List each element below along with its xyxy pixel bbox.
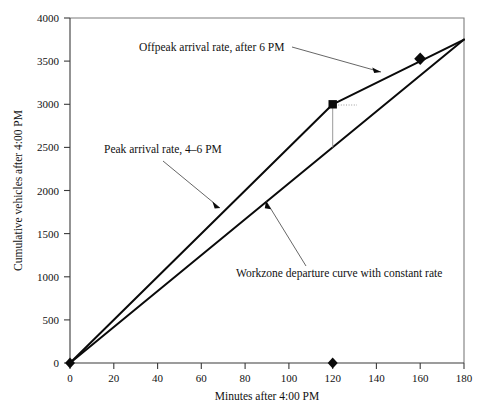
y-tick-label-3000: 3000 — [37, 98, 60, 110]
departure-annotation: Workzone departure curve with constant r… — [236, 201, 442, 280]
marker-x-axis-120 — [328, 358, 338, 369]
peak-annotation-leader — [163, 161, 220, 208]
cumulative-arrival-departure-chart: 4000 3500 3000 2500 2000 1500 1000 500 0… — [0, 0, 491, 418]
departure-curve-group — [70, 40, 464, 363]
x-axis-title: Minutes after 4:00 PM — [215, 390, 319, 402]
data-point-markers — [65, 52, 426, 368]
x-axis: 0 20 40 60 80 100 120 140 160 180 Minute… — [67, 363, 473, 402]
x-tick-label-20: 20 — [108, 372, 120, 384]
y-tick-label-0: 0 — [54, 357, 60, 369]
offpeak-annotation-arrowhead — [372, 67, 381, 73]
y-axis-ticks — [64, 18, 70, 363]
y-tick-label-2000: 2000 — [37, 185, 60, 197]
offpeak-annotation-label: Offpeak arrival rate, after 6 PM — [139, 41, 284, 54]
peak-annotation: Peak arrival rate, 4–6 PM — [104, 143, 222, 208]
departure-annotation-label: Workzone departure curve with constant r… — [236, 267, 442, 280]
y-tick-label-1500: 1500 — [37, 228, 60, 240]
offpeak-annotation: Offpeak arrival rate, after 6 PM — [139, 41, 381, 73]
departure-curve — [70, 40, 464, 363]
peak-annotation-label: Peak arrival rate, 4–6 PM — [104, 143, 222, 156]
y-axis: 4000 3500 3000 2500 2000 1500 1000 500 0… — [12, 12, 70, 369]
departure-annotation-leader — [266, 201, 306, 266]
y-tick-label-3500: 3500 — [37, 55, 60, 67]
x-tick-label-40: 40 — [152, 372, 164, 384]
figure-container: 4000 3500 3000 2500 2000 1500 1000 500 0… — [0, 0, 491, 418]
x-tick-label-120: 120 — [324, 372, 341, 384]
y-axis-tick-labels: 4000 3500 3000 2500 2000 1500 1000 500 0 — [37, 12, 60, 369]
marker-peak-end — [329, 100, 337, 108]
x-tick-label-0: 0 — [67, 372, 73, 384]
peak-annotation-arrowhead — [212, 202, 220, 209]
x-tick-label-100: 100 — [281, 372, 298, 384]
x-tick-label-80: 80 — [240, 372, 252, 384]
x-tick-label-160: 160 — [412, 372, 429, 384]
x-axis-ticks — [70, 363, 464, 369]
x-tick-label-180: 180 — [456, 372, 473, 384]
y-tick-label-4000: 4000 — [37, 12, 60, 24]
x-tick-label-140: 140 — [368, 372, 385, 384]
x-axis-tick-labels: 0 20 40 60 80 100 120 140 160 180 — [67, 372, 473, 384]
y-tick-label-500: 500 — [43, 314, 60, 326]
y-tick-label-1000: 1000 — [37, 271, 60, 283]
queue-length-indicator — [333, 104, 357, 147]
y-axis-title: Cumulative vehicles after 4:00 PM — [12, 110, 24, 271]
offpeak-annotation-leader — [292, 47, 381, 72]
x-tick-label-60: 60 — [196, 372, 208, 384]
y-tick-label-2500: 2500 — [37, 141, 60, 153]
